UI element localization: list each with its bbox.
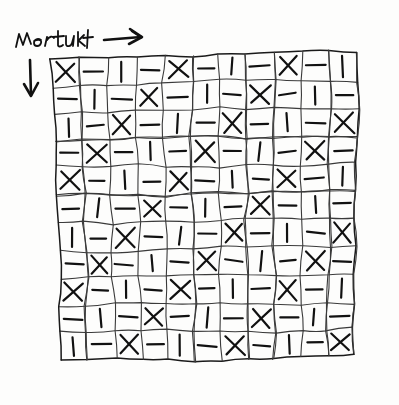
glyph-dash <box>195 180 214 181</box>
glyph-dash <box>333 261 351 262</box>
glyph-dash <box>167 97 187 98</box>
glyph-dash <box>144 289 161 290</box>
glyph-dash <box>115 264 133 266</box>
glyph-bar <box>151 255 152 271</box>
glyph-bar <box>313 309 314 325</box>
glyph-dash <box>307 232 325 234</box>
glyph-dash <box>170 261 188 262</box>
glyph-bar <box>69 119 70 137</box>
glyph-dash <box>251 288 269 289</box>
glyph-bar <box>286 113 287 131</box>
glyph-bar <box>258 142 260 160</box>
glyph-bar <box>315 196 316 213</box>
glyph-dash <box>306 123 326 124</box>
glyph-dash <box>330 316 349 317</box>
glyph-x <box>280 281 297 300</box>
glyph-x <box>335 114 354 133</box>
glyph-bar <box>342 56 343 77</box>
glyph-bar <box>341 279 342 298</box>
glyph-bar <box>97 198 99 217</box>
glyph-bar <box>231 57 232 74</box>
glyph-dash <box>145 236 163 237</box>
glyph-bar <box>73 337 74 356</box>
glyph-bar <box>232 171 233 188</box>
tally-grid <box>0 0 399 405</box>
glyph-dash <box>169 151 186 152</box>
glyph-bar <box>289 335 290 354</box>
glyph-bar <box>150 142 151 160</box>
glyph-bar <box>177 114 178 133</box>
glyph-dash <box>225 206 242 207</box>
glyph-dash <box>199 288 214 289</box>
glyph-dash <box>112 99 132 100</box>
glyph-dash <box>334 150 352 151</box>
glyph-dash <box>119 316 137 317</box>
glyph-dash <box>249 65 269 66</box>
glyph-dash <box>92 290 108 291</box>
glyph-bar <box>260 251 262 271</box>
grid-glyphs <box>56 56 355 356</box>
glyph-bar <box>124 171 125 189</box>
glyph-dash <box>64 319 83 320</box>
glyph-dash <box>141 125 160 126</box>
glyph-dash <box>279 151 296 153</box>
glyph-dash <box>280 260 296 261</box>
glyph-dash <box>66 263 84 264</box>
glyph-dash <box>58 99 77 100</box>
glyph-dash <box>223 94 241 95</box>
paper-sheet <box>0 0 399 405</box>
glyph-dash <box>171 316 189 317</box>
glyph-bar <box>207 307 209 327</box>
glyph-dash <box>62 209 79 210</box>
glyph-dash <box>225 259 242 262</box>
glyph-dash <box>253 179 269 180</box>
glyph-dash <box>87 125 104 127</box>
glyph-x <box>170 173 187 191</box>
glyph-bar <box>342 167 343 186</box>
glyph-dash <box>305 177 324 179</box>
glyph-dash <box>198 345 217 347</box>
glyph-dash <box>253 345 270 346</box>
glyph-bar <box>179 227 181 245</box>
glyph-dash <box>279 93 296 95</box>
glyph-bar <box>100 309 102 327</box>
